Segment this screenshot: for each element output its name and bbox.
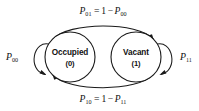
loop-00-sub: 00 <box>12 57 18 63</box>
state-node-occupied-label: Occupied <box>52 48 89 57</box>
state-node-vacant-index: (1) <box>132 59 142 68</box>
loop-00-base: P <box>5 51 12 62</box>
svg-text:P01=1−P00: P01=1−P00 <box>78 5 126 17</box>
state-node-vacant[interactable]: Vacant (1) <box>111 32 161 82</box>
markov-chain-diagram: Occupied (0) Vacant (1) P01=1−P00 P10=1−… <box>0 0 199 111</box>
loop-11-base: P <box>179 51 186 62</box>
edge-01-operator: = <box>94 5 99 16</box>
svg-text:P11: P11 <box>179 51 192 63</box>
state-node-occupied-index: (0) <box>66 59 76 68</box>
edge-10-lhs-sub: 10 <box>85 99 91 105</box>
self-loop-11-arrowhead <box>159 70 166 75</box>
transition-edge-01-label: P01=1−P00 <box>78 5 126 17</box>
edge-01-rhs-number: 1 <box>101 5 106 16</box>
edge-10-rhs-sub: 11 <box>121 99 127 105</box>
edge-10-operator: = <box>94 93 99 104</box>
state-node-occupied[interactable]: Occupied (0) <box>45 32 95 82</box>
state-node-vacant-label: Vacant <box>123 48 149 57</box>
svg-text:P10=1−P11: P10=1−P11 <box>79 93 127 105</box>
state-node-vacant-circle <box>111 32 161 82</box>
transition-edge-10-label: P10=1−P11 <box>79 93 127 105</box>
self-loop-00-arrowhead <box>40 70 47 75</box>
diagram-canvas: Occupied (0) Vacant (1) P01=1−P00 P10=1−… <box>0 0 199 111</box>
edge-01-rhs-minus: − <box>108 5 113 16</box>
state-node-occupied-circle <box>45 32 95 82</box>
loop-11-sub: 11 <box>186 57 192 63</box>
edge-10-rhs-minus: − <box>108 93 113 104</box>
svg-text:P00: P00 <box>5 51 18 63</box>
edge-10-rhs-number: 1 <box>101 93 106 104</box>
self-loop-11-label: P11 <box>179 51 192 63</box>
edge-01-lhs-sub: 01 <box>85 11 91 17</box>
self-loop-00-label: P00 <box>5 51 18 63</box>
edge-01-rhs-sub: 00 <box>120 11 126 17</box>
